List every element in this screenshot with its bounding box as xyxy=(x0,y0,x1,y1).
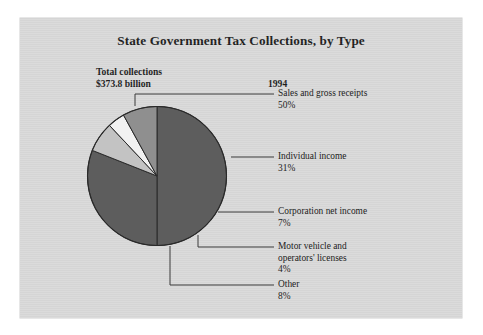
callout-pct-sales-and-gross-receipts: 50% xyxy=(278,100,367,112)
callout-label-motor-vehicle-line2: operators' licenses xyxy=(278,253,347,265)
callout-sales-and-gross-receipts: Sales and gross receipts 50% xyxy=(278,88,367,111)
callout-label-individual-income: Individual income xyxy=(278,151,346,161)
callout-pct-corporation-net-income: 7% xyxy=(278,218,367,230)
callout-motor-vehicle-licenses: Motor vehicle and operators' licenses 4% xyxy=(278,241,347,276)
callout-other: Other 8% xyxy=(278,279,299,302)
leader-line-motor-vehicle-licenses xyxy=(198,235,274,247)
callout-label-corporation-net-income: Corporation net income xyxy=(278,206,367,216)
leader-lines-group xyxy=(0,0,483,335)
callout-pct-other: 8% xyxy=(278,291,299,303)
leader-line-sales-and-gross-receipts xyxy=(135,94,274,106)
callout-pct-motor-vehicle-licenses: 4% xyxy=(278,264,347,276)
callout-pct-individual-income: 31% xyxy=(278,163,346,175)
figure-container: State Government Tax Collections, by Typ… xyxy=(0,0,483,335)
leader-line-other xyxy=(170,246,274,285)
callout-label-sales-and-gross-receipts: Sales and gross receipts xyxy=(278,88,367,98)
callout-corporation-net-income: Corporation net income 7% xyxy=(278,206,367,229)
callout-label-other: Other xyxy=(278,279,299,289)
callout-label-motor-vehicle-line1: Motor vehicle and xyxy=(278,241,347,251)
callout-individual-income: Individual income 31% xyxy=(278,151,346,174)
